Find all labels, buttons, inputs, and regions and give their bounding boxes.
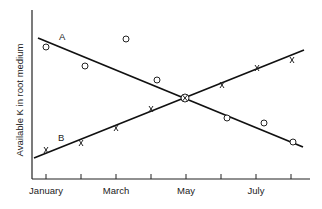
data-point-circle — [154, 77, 160, 83]
x-ticks — [46, 174, 291, 179]
data-point-x — [290, 57, 294, 63]
chart: January March May July Available K in ro… — [0, 0, 322, 209]
data-point-x — [79, 140, 83, 146]
intersection-marker — [181, 94, 189, 102]
tick-label-january: January — [29, 185, 63, 196]
data-point-x — [44, 147, 48, 153]
data-point-circle — [123, 36, 129, 42]
data-point-circle — [290, 139, 296, 145]
data-point-circle — [82, 63, 88, 69]
data-point-circle — [224, 115, 230, 121]
data-point-circle — [261, 120, 267, 126]
tick-label-may: May — [177, 185, 195, 196]
data-point-circle — [43, 44, 49, 50]
series-label-b: B — [58, 132, 64, 143]
tick-label-march: March — [103, 185, 129, 196]
trend-line-a — [38, 38, 303, 147]
trend-line-b — [34, 50, 304, 158]
tick-label-july: July — [248, 185, 265, 196]
series-label-a: A — [59, 31, 66, 42]
y-axis-title: Available K in root medium — [14, 44, 25, 157]
